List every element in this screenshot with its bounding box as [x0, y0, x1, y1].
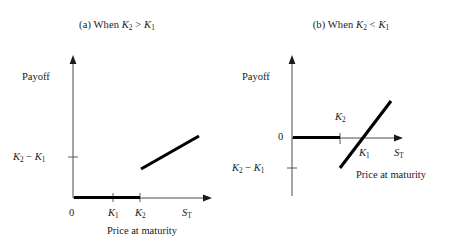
panel-b-x-tick-label-k2: K2 [335, 112, 346, 123]
panel-a-x-tick-label-st: ST [182, 208, 192, 219]
figure-container: (a) When K2 > K1 Payoff [0, 0, 468, 250]
panel-a-xtick-st-sub: T [187, 211, 191, 220]
panel-a-ytick-main2: K [35, 151, 42, 162]
panel-a-x-tick-label-k1: K1 [108, 208, 119, 219]
panel-b-xtick-k2-main: K [335, 111, 342, 122]
panel-a: (a) When K2 > K1 Payoff [0, 0, 234, 250]
panel-a-ytick-sub: 2 [20, 155, 24, 164]
panel-b-ytick-sub2: 1 [261, 166, 265, 175]
panel-b-plot [234, 0, 468, 250]
panel-a-rising-segment [141, 136, 199, 169]
panel-a-ytick-sub2: 1 [42, 155, 46, 164]
panel-b-y-axis-label: Payoff [242, 72, 270, 83]
panel-a-x-tick-label-zero: 0 [69, 208, 74, 219]
panel-a-xtick-k2-main: K [135, 207, 142, 218]
panel-b-y-axis [289, 55, 296, 196]
panel-b-x-axis-caption: Price at maturity [356, 170, 426, 181]
panel-b-ytick-main: K [232, 162, 239, 173]
panel-a-y-axis [70, 55, 77, 198]
panel-b-y-tick-label-k2mk1: K2 − K1 [232, 163, 265, 174]
panel-b-x-tick-label-k1: K1 [359, 148, 370, 159]
panel-a-xtick-k1-main: K [108, 207, 115, 218]
panel-a-xtick-k1-sub: 1 [115, 211, 119, 220]
panel-a-y-axis-label: Payoff [22, 72, 50, 83]
panel-a-ytick-main: K [13, 151, 20, 162]
panel-a-xtick-k2-sub: 2 [142, 211, 146, 220]
panel-b-ytick-op: − [243, 162, 254, 173]
panel-b-xtick-k1-main: K [359, 147, 366, 158]
panel-b-xtick-k2-sub: 2 [342, 115, 346, 124]
panel-a-x-tick-label-k2: K2 [135, 208, 146, 219]
panel-b-ytick-sub: 2 [239, 166, 243, 175]
panel-a-x-axis-caption: Price at maturity [107, 226, 177, 237]
panel-b: (b) When K2 < K1 Payoff 0 [234, 0, 468, 250]
panel-a-y-tick-label-k2mk1: K2 − K1 [13, 152, 46, 163]
panel-b-ytick-main2: K [254, 162, 261, 173]
panel-a-ytick-op: − [24, 151, 35, 162]
panel-b-xtick-k1-sub: 1 [366, 151, 370, 160]
panel-b-xtick-st-sub: T [399, 151, 403, 160]
panel-b-y-tick-label-zero: 0 [278, 132, 283, 143]
panel-b-x-tick-label-st: ST [394, 148, 404, 159]
